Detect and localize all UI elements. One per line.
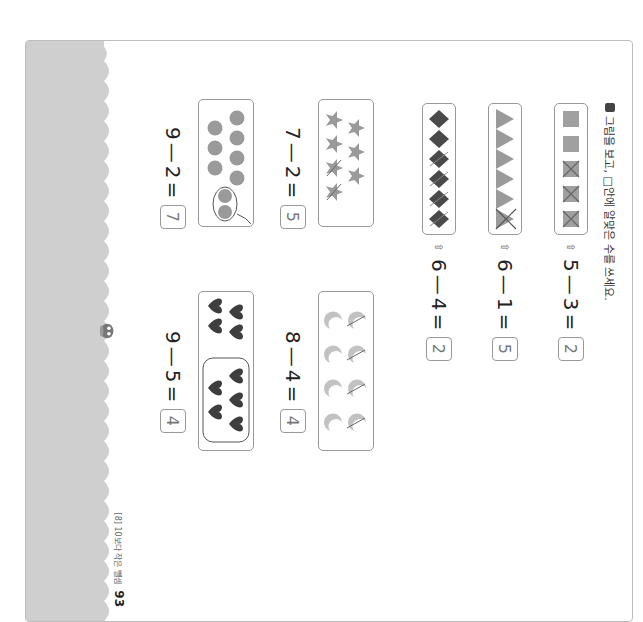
minuend: 8	[281, 331, 305, 345]
moon-crossed-icon	[347, 380, 366, 397]
minus-sign: —	[281, 347, 305, 368]
minus-sign: —	[161, 143, 185, 164]
subtrahend: 2	[161, 166, 185, 180]
equation: 6 — 1 = 5	[492, 259, 518, 361]
triangle-icon	[496, 109, 514, 129]
square-crossed-icon	[563, 161, 579, 177]
circle-icon	[230, 151, 245, 166]
heart-icon	[208, 405, 222, 420]
equals-sign: =	[493, 313, 517, 331]
shape-box-stars	[318, 99, 374, 227]
shape-box-hearts	[198, 291, 254, 451]
squares-figure	[556, 105, 586, 233]
minuend: 5	[559, 259, 583, 273]
moon-icon	[324, 346, 342, 363]
minuend: 7	[281, 127, 305, 141]
heart-icon	[208, 299, 222, 314]
problem-row-1: ⇧ 5 — 3 = 2	[554, 103, 588, 361]
shape-box-squares	[554, 103, 588, 235]
moon-crossed-icon	[347, 414, 366, 431]
answer-box[interactable]: 4	[280, 409, 306, 433]
moon-icon	[324, 380, 342, 397]
heart-icon	[229, 325, 243, 340]
worksheet-page: 그림을 보고, □안에 알맞은 수를 쓰세요. ⇧ 5 — 3 = 2	[25, 40, 633, 622]
diamond-crossed-icon	[429, 210, 449, 228]
equation: 5 — 3 = 2	[558, 259, 584, 361]
minuend: 9	[161, 331, 185, 345]
hearts-figure	[199, 292, 253, 450]
subtrahend: 4	[427, 298, 451, 312]
circled-group	[203, 358, 249, 442]
equation-hearts: 9 — 5 = 4	[160, 331, 186, 433]
minus-sign: —	[161, 347, 185, 368]
triangles-figure	[490, 105, 520, 233]
subtrahend: 2	[281, 166, 305, 180]
subtrahend: 1	[493, 298, 517, 312]
arrow-icon: ⇧	[565, 235, 578, 259]
circle-icon	[230, 111, 245, 126]
triangle-icon	[496, 149, 514, 169]
shape-box-diamonds	[422, 103, 456, 235]
diamonds-figure	[424, 105, 454, 233]
answer-box[interactable]: 4	[160, 409, 186, 433]
equation-stars: 7 — 2 = 5	[280, 127, 306, 229]
circle-icon	[230, 171, 245, 186]
equals-sign: =	[281, 181, 305, 199]
answer-box[interactable]: 5	[492, 337, 518, 361]
decorative-wave-band	[26, 41, 104, 621]
minus-sign: —	[559, 275, 583, 296]
subtrahend: 4	[281, 370, 305, 384]
moon-icon	[324, 414, 342, 431]
square-crossed-icon	[563, 186, 579, 202]
minuend: 6	[493, 259, 517, 273]
square-icon	[563, 111, 579, 127]
minuend: 9	[161, 127, 185, 141]
star-icon	[348, 143, 365, 161]
equation-circles: 9 — 2 = 7	[160, 127, 186, 229]
equals-sign: =	[281, 385, 305, 403]
equals-sign: =	[161, 385, 185, 403]
circle-icon	[208, 161, 223, 176]
answer-box[interactable]: 2	[426, 337, 452, 361]
instruction: 그림을 보고, □안에 알맞은 수를 쓰세요.	[602, 103, 618, 301]
star-crossed-icon	[326, 159, 343, 177]
circles-figure	[199, 100, 253, 226]
minus-sign: —	[281, 143, 305, 164]
equals-sign: =	[161, 181, 185, 199]
diamond-icon	[429, 110, 449, 128]
diamond-icon	[429, 130, 449, 148]
star-icon	[326, 111, 343, 129]
star-icon	[326, 135, 343, 153]
diamond-crossed-icon	[429, 190, 449, 208]
triangle-icon	[496, 189, 514, 209]
diamond-crossed-icon	[429, 170, 449, 188]
problem-row-2: ⇧ 6 — 1 = 5	[488, 103, 522, 361]
triangle-crossed-icon	[496, 209, 516, 229]
heart-icon	[208, 319, 222, 334]
instruction-text: 그림을 보고, □안에 알맞은 수를 쓰세요.	[602, 116, 618, 301]
star-crossed-icon	[326, 183, 343, 201]
square-icon	[563, 136, 579, 152]
heart-icon	[229, 305, 243, 320]
triangle-icon	[496, 169, 514, 189]
circled-group	[213, 187, 251, 224]
heart-icon	[229, 417, 243, 432]
moon-icon	[324, 312, 342, 329]
heart-icon	[208, 381, 222, 396]
stars-figure	[319, 100, 373, 226]
triangle-icon	[496, 129, 514, 149]
minuend: 6	[427, 259, 451, 273]
answer-box[interactable]: 2	[558, 337, 584, 361]
heart-icon	[229, 393, 243, 408]
arrow-icon: ⇧	[433, 235, 446, 259]
problem-row-3: ⇧ 6 — 4 = 2	[422, 103, 456, 361]
arrow-icon: ⇧	[499, 235, 512, 259]
square-crossed-icon	[563, 211, 579, 227]
answer-box[interactable]: 5	[280, 205, 306, 229]
minus-sign: —	[427, 275, 451, 296]
circle-icon	[230, 131, 245, 146]
answer-box[interactable]: 7	[160, 205, 186, 229]
star-icon	[348, 119, 365, 137]
mascot-icon	[98, 41, 118, 621]
circle-icon	[218, 189, 232, 203]
